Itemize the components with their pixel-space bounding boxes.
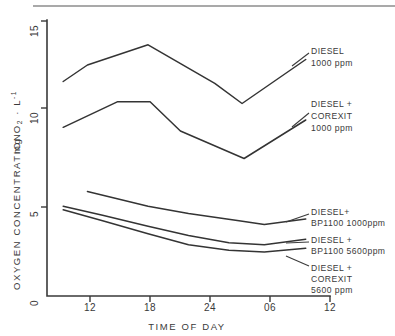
x-tick-label-3: 06	[264, 302, 276, 313]
unit-prefix: mg O	[11, 124, 22, 154]
y-axis-title-main: OXYGEN CONCENTRATION	[11, 133, 22, 290]
legend-block-diesel-bp1100-1000: DIESEL+ BP1100 1000ppm	[311, 207, 385, 228]
legend-diesel-1000-line-1: 1000 ppm	[311, 58, 353, 68]
leader-line-diesel-corexit-5600	[286, 256, 309, 266]
chart-figure: 15 10 5 0 OXYGEN CONCENTRATION mg O2 · L…	[0, 0, 395, 336]
unit-mid: · L	[11, 99, 22, 119]
data-curve-diesel-corexit-5600	[63, 210, 306, 252]
x-axis-title: TIME OF DAY	[148, 321, 226, 332]
legend-diesel-corexit-1000-line-2: 1000 ppm	[311, 123, 353, 133]
leader-line-diesel-bp1100-5600	[286, 242, 309, 243]
legend-diesel-bp1100-1000-line-1: BP1100 1000ppm	[311, 218, 385, 228]
legend-diesel-1000-line-0: DIESEL	[311, 46, 344, 56]
y-axis-title: OXYGEN CONCENTRATION mg O2 · L-1	[10, 90, 23, 290]
oxygen-concentration-line-chart: 15 10 5 0 OXYGEN CONCENTRATION mg O2 · L…	[0, 0, 395, 336]
x-tick-label-2: 24	[204, 302, 216, 313]
y-tick-label-5: 5	[29, 211, 40, 217]
y-tick-label-15: 15	[29, 25, 40, 37]
y-tick-label-10: 10	[29, 112, 40, 124]
legend-diesel-corexit-5600-line-1: COREXIT	[311, 274, 353, 284]
legend-block-diesel-corexit-5600: DIESEL + COREXIT 5600 ppm	[311, 263, 353, 295]
unit-superscript: -1	[10, 90, 17, 99]
data-series-group	[63, 45, 306, 252]
axes	[41, 20, 330, 302]
y-axis-tick-labels: 15 10 5 0	[29, 25, 40, 306]
data-curve-diesel-bp1100-5600	[63, 206, 306, 245]
x-tick-label-0: 12	[84, 302, 96, 313]
legend-leader-lines	[286, 53, 309, 266]
legend-diesel-bp1100-5600-line-1: BP1100 5600ppm	[311, 246, 385, 256]
x-axis-tick-labels: 12 18 24 06 12	[84, 302, 336, 313]
data-curve-diesel-corexit-1000	[63, 102, 306, 159]
legend-diesel-corexit-5600-line-0: DIESEL +	[311, 263, 352, 273]
legend-diesel-corexit-5600-line-2: 5600 ppm	[311, 285, 353, 295]
legend-block-diesel-bp1100-5600: DIESEL + BP1100 5600ppm	[311, 235, 385, 256]
legend-diesel-bp1100-5600-line-0: DIESEL +	[311, 235, 352, 245]
data-curve-diesel-1000	[63, 45, 306, 104]
legend-diesel-corexit-1000-line-0: DIESEL +	[311, 99, 352, 109]
y-tick-label-0: 0	[29, 300, 40, 306]
legend-diesel-bp1100-1000-line-0: DIESEL+	[311, 207, 350, 217]
legend-block-diesel-1000: DIESEL 1000 ppm	[311, 46, 353, 68]
legend-block-diesel-corexit-1000: DIESEL + COREXIT 1000 ppm	[311, 99, 353, 133]
legend-diesel-corexit-1000-line-1: COREXIT	[311, 111, 353, 121]
x-tick-label-1: 18	[144, 302, 156, 313]
legend-labels: DIESEL 1000 ppm DIESEL + COREXIT 1000 pp…	[311, 46, 385, 295]
x-tick-label-4: 12	[324, 302, 336, 313]
axis-lines	[47, 20, 330, 296]
y-axis-title-unit: mg O2 · L-1	[10, 90, 23, 154]
